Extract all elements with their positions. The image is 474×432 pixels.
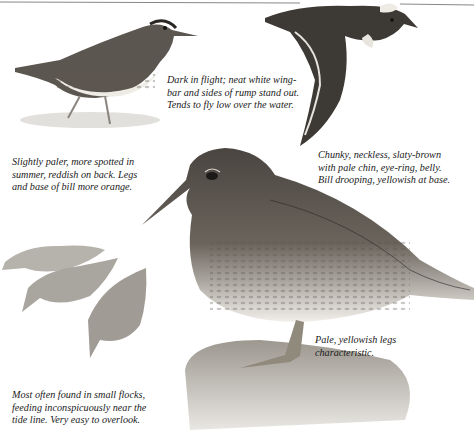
main-bird-illustration — [142, 148, 474, 430]
caption-flight: Dark in flight; neat white wing- bar and… — [167, 74, 299, 112]
flock-illustration — [2, 246, 146, 359]
top-rule — [0, 2, 474, 5]
caption-flock-behavior: Most often found in small flocks, feedin… — [12, 389, 146, 427]
caption-legs: Pale, yellowish legs characteristic. — [315, 334, 396, 359]
caption-main-description: Chunky, neckless, slaty-brown with pale … — [318, 149, 450, 187]
illustration-layer — [0, 0, 474, 432]
caption-summer-plumage: Slightly paler, more spotted in summer, … — [12, 156, 137, 194]
